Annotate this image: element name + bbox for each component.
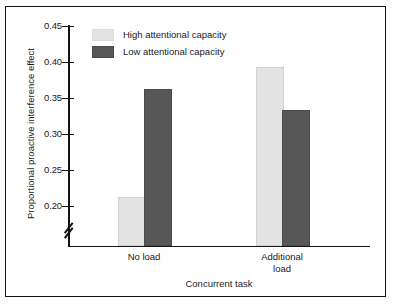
y-tick-045: [62, 26, 74, 27]
y-tick-030: [62, 134, 74, 135]
y-tick-040: [62, 62, 74, 63]
legend-swatch-dark-gray-icon: [92, 46, 114, 58]
legend-item-high-attentional-capacity: High attentional capacity: [92, 28, 302, 42]
bar-no-load-high-capacity: [118, 197, 146, 246]
legend-item-low-attentional-capacity: Low attentional capacity: [92, 45, 302, 59]
y-tick-020: [62, 206, 74, 207]
bar-additional-load-low-capacity: [282, 110, 310, 246]
y-axis-title: Proportional proactive interference effe…: [25, 29, 36, 239]
y-axis-line: [68, 25, 70, 246]
plot-area: 0.45 0.40 0.35 0.30 0.25 0.20 No load Ad…: [0, 0, 393, 305]
x-category-line-2: load: [273, 263, 291, 274]
legend-swatch-light-gray-icon: [92, 29, 114, 41]
legend-label-low-attentional-capacity: Low attentional capacity: [123, 47, 224, 57]
bar-no-load-low-capacity: [144, 89, 172, 246]
legend-label-high-attentional-capacity: High attentional capacity: [123, 30, 227, 40]
y-tick-035: [62, 98, 74, 99]
x-axis-title: Concurrent task: [68, 278, 370, 289]
x-axis-line: [68, 246, 370, 248]
x-category-label-no-load: No load: [84, 251, 204, 263]
y-tick-025: [62, 170, 74, 171]
bar-additional-load-high-capacity: [256, 67, 284, 246]
x-category-line-1: No load: [128, 251, 161, 262]
x-category-label-additional-load: Additional load: [222, 251, 342, 274]
figure-container: 0.45 0.40 0.35 0.30 0.25 0.20 No load Ad…: [0, 0, 393, 305]
x-category-line-1: Additional: [261, 251, 303, 262]
legend: High attentional capacity Low attentiona…: [92, 28, 302, 62]
